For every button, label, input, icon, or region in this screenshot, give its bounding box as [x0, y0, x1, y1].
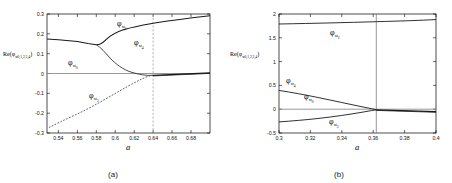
panel-a: 0.54 0.56 0.58 0.6 0.62 0.64 0.66 0.68 0…: [0, 0, 226, 183]
panel-b-xtick-5: 0.4: [432, 135, 439, 141]
panel-a-xtick-6: 0.66: [167, 135, 177, 141]
panel-b-ylabel-prefix: Re(: [230, 51, 239, 58]
panel-b-xticks: [279, 14, 436, 133]
svg-text:Re(φst0,1,2,3,4): Re(φst0,1,2,3,4): [230, 51, 259, 60]
panel-a-caption: (a): [0, 170, 226, 179]
panel-a-xtick-2: 0.58: [91, 135, 101, 141]
panel-a-label-phi-st3: φst3: [89, 91, 99, 103]
panel-b-xlabel: a: [355, 142, 359, 152]
panel-a-xtick-1: 0.56: [72, 135, 82, 141]
svg-text:Re(φst0,1,2,3,4): Re(φst0,1,2,3,4): [3, 51, 32, 60]
panel-b-ytick-0: 2: [273, 11, 276, 17]
panel-b-curve-phi-st3: [279, 110, 376, 122]
panel-b-ylabel-sub: st0,1,2,3,4: [242, 55, 257, 60]
panel-a-xtick-7: 0.68: [186, 135, 196, 141]
panel-b-xtick-4: 0.38: [400, 135, 410, 141]
panel-b-plot: 0.3 0.32 0.34 0.36 0.38 0.4 2 1.5 1 0.5 …: [226, 0, 452, 183]
panel-a-ytick-0: 0.3: [37, 11, 44, 17]
panel-a-label-phi-st4: φst4: [134, 38, 144, 50]
panel-b-curve-phi-st4: [279, 90, 376, 109]
panel-a-label-phi-st1: φst1: [117, 19, 127, 31]
panel-b-caption: (b): [226, 170, 452, 179]
panel-a-curve-phi-st3: [49, 75, 153, 127]
panel-b-ytick-4: 0: [273, 106, 276, 112]
panel-b: 0.3 0.32 0.34 0.36 0.38 0.4 2 1.5 1 0.5 …: [226, 0, 452, 183]
panel-b-ytick-5: -0.5: [267, 130, 276, 136]
panel-a-ylabel-sub: st0,1,2,3,4: [15, 55, 30, 60]
panel-a-ytick-2: 0.1: [37, 51, 44, 57]
panel-a-curve-phi-st4: [96, 45, 153, 76]
panel-a-xtick-0: 0.54: [53, 135, 63, 141]
figure-container: 0.54 0.56 0.58 0.6 0.62 0.64 0.66 0.68 0…: [0, 0, 452, 183]
panel-b-xtick-1: 0.32: [305, 135, 315, 141]
panel-b-label-phi-st2: φst2: [330, 28, 340, 40]
panel-b-ylabel-suffix: ): [257, 51, 259, 58]
panel-b-ytick-1: 1.5: [269, 35, 276, 41]
panel-a-ytick-1: 0.2: [37, 31, 44, 37]
panel-a-xtick-5: 0.64: [148, 135, 158, 141]
panel-a-xlabel: a: [126, 142, 130, 152]
panel-b-axes-frame: [279, 14, 436, 133]
panel-b-xtick-0: 0.3: [275, 135, 282, 141]
panel-b-ytick-2: 1: [273, 59, 276, 65]
panel-b-label-phi-st0: φst0: [304, 92, 314, 104]
panel-b-label-phi-st4: φst4: [286, 76, 296, 88]
panel-b-xtick-2: 0.34: [337, 135, 347, 141]
panel-a-ytick-6: -0.3: [35, 130, 44, 136]
panel-b-yticks: [279, 14, 436, 133]
panel-b-curve-phi-st2: [279, 20, 436, 25]
panel-a-ylabel: Re(φst0,1,2,3,4): [3, 51, 32, 60]
panel-b-ytick-3: 0.5: [269, 82, 276, 88]
panel-a-label-phi-st0: φst0: [68, 58, 78, 70]
panel-a-plot: 0.54 0.56 0.58 0.6 0.62 0.64 0.66 0.68 0…: [0, 0, 226, 183]
panel-a-ylabel-prefix: Re(: [3, 51, 12, 58]
panel-a-ylabel-suffix: ): [30, 51, 32, 58]
panel-a-ytick-5: -0.2: [35, 110, 44, 116]
panel-a-ytick-4: -0.1: [35, 90, 44, 96]
panel-a-curve-phi-st1: [47, 16, 210, 45]
panel-a-xtick-3: 0.6: [112, 135, 119, 141]
panel-b-label-phi-st3: φst3: [329, 117, 339, 129]
panel-a-ytick-3: 0: [41, 71, 44, 77]
panel-b-ylabel: Re(φst0,1,2,3,4): [230, 51, 259, 60]
panel-b-xtick-3: 0.36: [368, 135, 378, 141]
panel-a-xtick-4: 0.62: [129, 135, 139, 141]
